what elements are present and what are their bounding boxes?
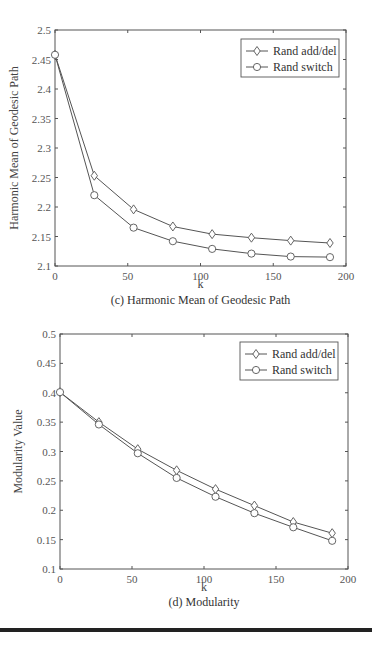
y-tick-label: 0.35 — [37, 416, 57, 428]
diamond-marker-icon — [329, 529, 335, 538]
circle-legend-icon — [253, 63, 260, 70]
circle-marker-icon — [95, 421, 102, 428]
y-tick-label: 0.25 — [37, 475, 57, 487]
x-tick-label: 200 — [338, 270, 355, 282]
y-tick-label: 0.15 — [37, 534, 57, 546]
y-tick-label: 2.35 — [32, 113, 52, 125]
y-tick-label: 2.3 — [37, 142, 51, 154]
figure-caption: (d) Modularity — [169, 595, 240, 609]
y-tick-label: 2.45 — [32, 54, 52, 66]
circle-marker-icon — [134, 450, 141, 457]
y-tick-label: 2.1 — [37, 260, 51, 272]
series-rand-add-del — [57, 388, 336, 538]
y-tick-label: 0.3 — [42, 446, 56, 458]
circle-marker-icon — [169, 238, 176, 245]
y-tick-label: 2.4 — [37, 83, 51, 95]
chart-harmonic-mean: 0501001502002.12.152.22.252.32.352.42.45… — [7, 24, 355, 307]
diamond-marker-icon — [212, 485, 218, 494]
x-tick-label: 200 — [340, 573, 357, 585]
diamond-marker-icon — [130, 205, 136, 214]
figure: 0501001502002.12.152.22.252.32.352.42.45… — [0, 0, 372, 646]
circle-marker-icon — [130, 224, 137, 231]
y-tick-label: 0.4 — [42, 387, 56, 399]
page-rule — [0, 628, 372, 632]
diamond-marker-icon — [91, 171, 97, 180]
x-tick-label: 150 — [268, 573, 285, 585]
y-tick-label: 2.25 — [32, 172, 52, 184]
y-tick-label: 2.15 — [32, 231, 52, 243]
circle-marker-icon — [91, 192, 98, 199]
circle-marker-icon — [212, 493, 219, 500]
y-tick-label: 0.45 — [37, 357, 57, 369]
legend-label: Rand add/del — [273, 44, 337, 58]
chart-modularity: 0501001502000.10.150.20.250.30.350.40.45… — [11, 328, 357, 609]
x-axis-label: k — [201, 580, 207, 594]
x-tick-label: 0 — [57, 573, 63, 585]
figure-caption: (c) Harmonic Mean of Geodesic Path — [111, 293, 291, 307]
y-axis-label: Modularity Value — [11, 409, 25, 493]
diamond-marker-icon — [209, 230, 215, 239]
y-tick-label: 0.2 — [42, 504, 56, 516]
circle-marker-icon — [290, 524, 297, 531]
diamond-marker-icon — [170, 222, 176, 231]
series-rand-switch — [51, 51, 333, 261]
legend: Rand add/delRand switch — [240, 342, 338, 380]
diamond-marker-icon — [327, 238, 333, 247]
x-tick-label: 150 — [265, 270, 282, 282]
diamond-marker-icon — [251, 501, 257, 510]
diamond-marker-icon — [173, 466, 179, 475]
circle-marker-icon — [251, 510, 258, 517]
legend: Rand add/delRand switch — [241, 39, 339, 77]
y-tick-label: 0.5 — [42, 328, 56, 340]
circle-marker-icon — [56, 389, 63, 396]
x-tick-label: 0 — [52, 270, 58, 282]
diamond-marker-icon — [288, 236, 294, 245]
circle-marker-icon — [248, 250, 255, 257]
circle-marker-icon — [287, 253, 294, 260]
x-tick-label: 50 — [122, 270, 134, 282]
x-tick-label: 50 — [127, 573, 139, 585]
y-tick-label: 2.5 — [37, 24, 51, 36]
circle-marker-icon — [173, 474, 180, 481]
legend-label: Rand add/del — [272, 347, 336, 361]
y-tick-label: 0.1 — [42, 563, 56, 575]
diamond-marker-icon — [248, 233, 254, 242]
circle-marker-icon — [209, 245, 216, 252]
y-axis-label: Harmonic Mean of Geodesic Path — [7, 66, 21, 229]
circle-marker-icon — [329, 537, 336, 544]
circle-legend-icon — [252, 366, 259, 373]
x-axis-label: k — [198, 277, 204, 291]
series-rand-add-del — [52, 50, 333, 247]
legend-label: Rand switch — [272, 363, 332, 377]
legend-label: Rand switch — [273, 60, 333, 74]
circle-marker-icon — [51, 51, 58, 58]
y-tick-label: 2.2 — [37, 201, 51, 213]
circle-marker-icon — [326, 254, 333, 261]
